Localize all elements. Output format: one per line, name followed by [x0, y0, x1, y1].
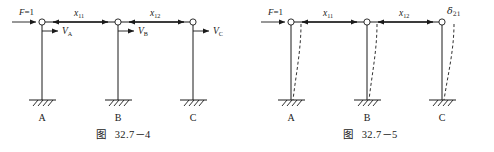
support-a-hatch-3: [43, 100, 48, 106]
support-c-hatch-3: [443, 100, 448, 106]
span-x12-label: x12: [149, 8, 160, 19]
support-a-hatch-2: [287, 100, 292, 106]
figure-32-7-4-caption: 图32.7－4: [0, 126, 247, 141]
support-b-label: B: [364, 112, 371, 123]
caption-cjk-label: 图: [343, 128, 353, 140]
support-a-hatch-1: [282, 100, 287, 106]
reaction-vb-group: VB: [118, 26, 148, 37]
support-b-group: B: [105, 100, 132, 123]
joint-b: [364, 19, 370, 25]
joint-c: [439, 19, 445, 25]
joint-a: [288, 19, 294, 25]
span-x12-group: x12: [129, 8, 184, 22]
columns-group: [291, 22, 442, 100]
support-a-hatch-1: [33, 100, 38, 106]
support-b-hatch-4: [124, 100, 129, 106]
figure-32-7-4: F=1 x11 x12 VA VB: [0, 0, 247, 152]
applied-load-group: F=1: [12, 7, 36, 22]
figure-sheet: F=1 x11 x12 VA VB: [0, 0, 494, 152]
support-b-hatch-1: [358, 100, 363, 106]
span-x11-label: x11: [322, 8, 333, 19]
support-c-hatch-2: [189, 100, 194, 106]
reaction-vc-label: VC: [213, 26, 223, 37]
support-c-hatch-1: [433, 100, 438, 106]
support-a-group: A: [278, 100, 305, 123]
joint-c: [190, 19, 196, 25]
support-c-group: C: [429, 100, 456, 123]
support-a-hatch-3: [292, 100, 297, 106]
support-a-group: A: [29, 100, 56, 123]
support-c-hatch-4: [199, 100, 204, 106]
support-a-hatch-4: [297, 100, 302, 106]
deflected-shape-group: [293, 24, 454, 100]
span-x12-group: x12: [378, 8, 433, 22]
figure-32-7-5-drawing: F=1 x11 x12 δ21: [247, 0, 494, 126]
displacement-delta21-group: δ21: [447, 5, 461, 17]
support-c-hatch-2: [438, 100, 443, 106]
caption-number: 32.7－4: [115, 129, 151, 140]
support-b-label: B: [115, 112, 122, 123]
reaction-vc-group: VC: [193, 26, 223, 37]
support-b-hatch-1: [109, 100, 114, 106]
span-x11-label: x11: [73, 8, 84, 19]
support-b-hatch-2: [114, 100, 119, 106]
reaction-va-group: VA: [42, 26, 73, 37]
support-c-label: C: [439, 112, 446, 123]
support-b-hatch-3: [119, 100, 124, 106]
reaction-vb-label: VB: [138, 26, 148, 37]
applied-load-group: F=1: [261, 7, 285, 22]
figure-32-7-5-caption: 图32.7－5: [247, 126, 494, 141]
displacement-delta21-label: δ21: [447, 5, 461, 17]
support-c-group: C: [180, 100, 207, 123]
deflection-curve-a: [293, 24, 301, 100]
support-c-label: C: [190, 112, 197, 123]
support-a-label: A: [287, 112, 295, 123]
support-b-hatch-2: [363, 100, 368, 106]
support-a-hatch-4: [48, 100, 53, 106]
support-b-hatch-4: [373, 100, 378, 106]
reaction-va-label: VA: [62, 26, 73, 37]
joint-a: [39, 19, 45, 25]
support-c-hatch-1: [184, 100, 189, 106]
span-x12-label: x12: [398, 8, 409, 19]
deflection-curve-c: [444, 24, 454, 100]
load-label: F=1: [267, 7, 283, 17]
support-b-hatch-3: [368, 100, 373, 106]
figure-32-7-4-drawing: F=1 x11 x12 VA VB: [0, 0, 247, 126]
support-a-label: A: [38, 112, 46, 123]
support-a-hatch-2: [38, 100, 43, 106]
caption-cjk-label: 图: [96, 128, 106, 140]
load-label: F=1: [18, 7, 34, 17]
support-c-hatch-3: [194, 100, 199, 106]
support-b-group: B: [354, 100, 381, 123]
span-x11-group: x11: [53, 8, 108, 22]
span-x11-group: x11: [302, 8, 357, 22]
figure-32-7-5: F=1 x11 x12 δ21: [247, 0, 494, 152]
deflection-curve-b: [369, 24, 377, 100]
support-c-hatch-4: [448, 100, 453, 106]
caption-number: 32.7－5: [362, 129, 398, 140]
joint-b: [115, 19, 121, 25]
